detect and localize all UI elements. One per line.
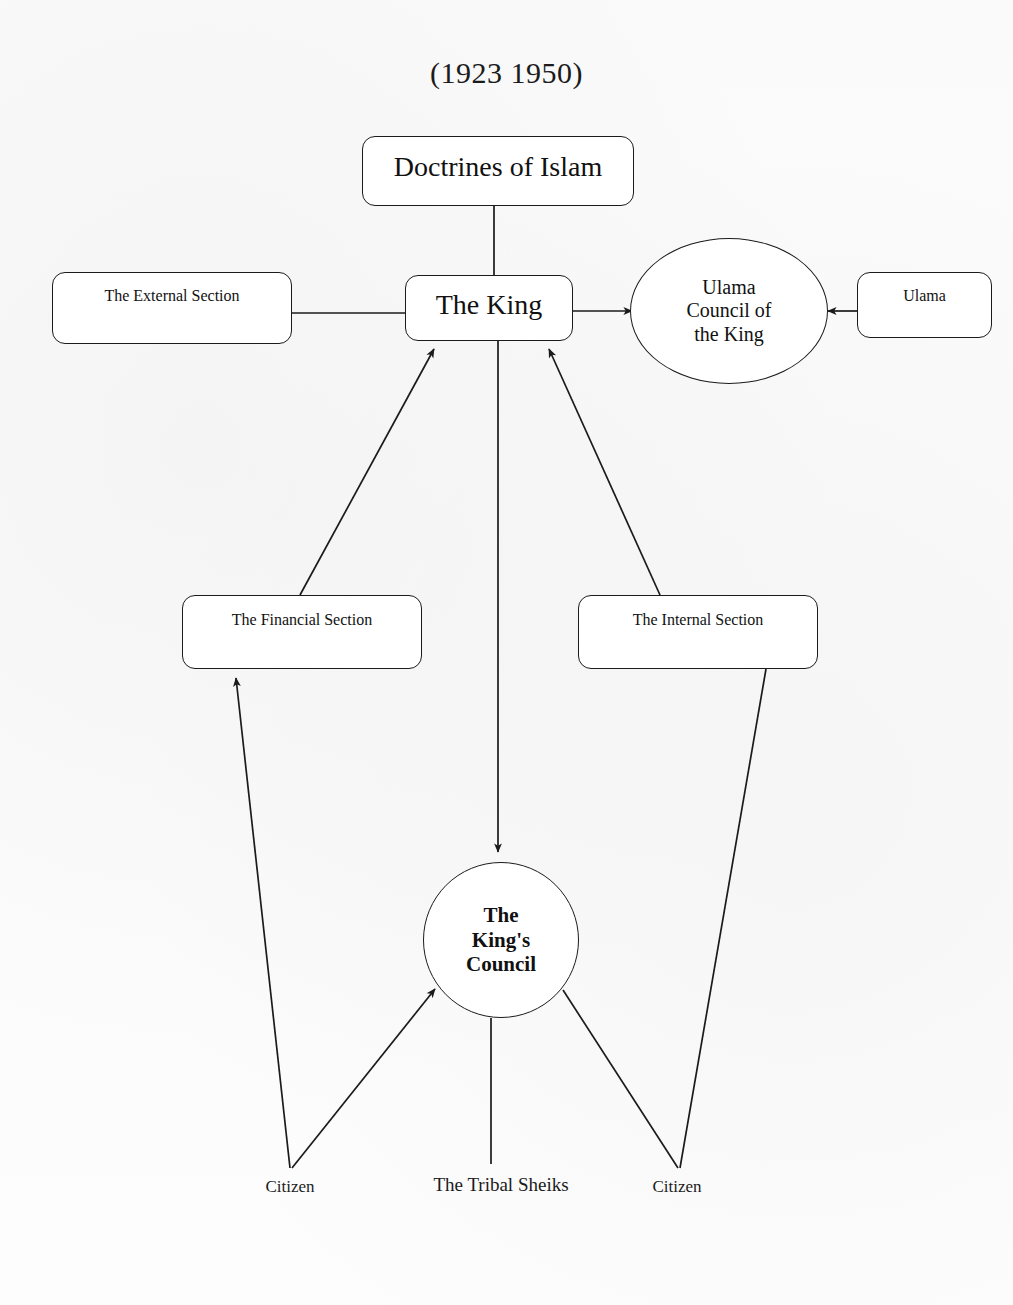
edge-citizen-right-to-internal: [680, 669, 766, 1168]
node-the-king-label: The King: [436, 276, 543, 340]
node-the-king[interactable]: The King: [405, 275, 573, 341]
node-the-external-section[interactable]: The External Section: [52, 272, 292, 344]
label-citizen-left: Citizen: [230, 1177, 350, 1197]
node-ulama-council-of-the-king-label: Ulama Council of the King: [687, 276, 772, 347]
node-the-internal-section[interactable]: The Internal Section: [578, 595, 818, 669]
diagram-page: (1923 1950) Doctr: [0, 0, 1013, 1305]
label-citizen-right: Citizen: [617, 1177, 737, 1197]
node-the-kings-council-label: The King's Council: [466, 903, 536, 977]
node-ulama[interactable]: Ulama: [857, 272, 992, 338]
edge-financial-to-king: [300, 349, 434, 595]
node-ulama-council-of-the-king[interactable]: Ulama Council of the King: [630, 238, 828, 384]
edge-citizen-left-to-financial: [236, 678, 290, 1168]
node-doctrines-of-islam[interactable]: Doctrines of Islam: [362, 136, 634, 206]
edge-citizen-left-to-kings-council: [292, 989, 435, 1168]
edge-citizen-right-to-kings-council: [563, 990, 678, 1168]
node-doctrines-of-islam-label: Doctrines of Islam: [394, 137, 602, 205]
node-the-external-section-label: The External Section: [104, 273, 239, 343]
edge-internal-to-king: [549, 349, 660, 595]
node-ulama-label: Ulama: [903, 273, 946, 337]
node-the-financial-section[interactable]: The Financial Section: [182, 595, 422, 669]
node-the-internal-section-label: The Internal Section: [633, 596, 764, 668]
node-the-kings-council[interactable]: The King's Council: [423, 862, 579, 1018]
node-the-financial-section-label: The Financial Section: [232, 596, 372, 668]
label-the-tribal-sheiks: The Tribal Sheiks: [396, 1174, 606, 1196]
